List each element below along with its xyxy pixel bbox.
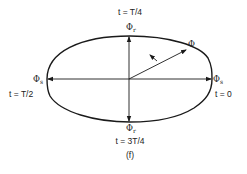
label-time-top: t = T/4 <box>118 7 142 17</box>
label-phi-resultant: Φ <box>188 39 195 49</box>
label-time-left: t = T/2 <box>9 89 33 99</box>
rotation-direction-arrow <box>150 55 157 61</box>
label-phi-r-top: Φr <box>126 22 136 33</box>
rotating-flux-diagram: t = T/4 Φr Φ Φs t = T/2 Φs t = 0 Φr t = … <box>0 0 247 174</box>
figure-caption: (f) <box>126 150 134 160</box>
label-phi-r-bottom: Φr <box>126 123 136 134</box>
arrow-phi-resultant <box>129 50 186 79</box>
label-phi-s-left: Φs <box>33 74 43 85</box>
label-time-bottom: t = 3T/4 <box>115 136 144 146</box>
label-phi-s-right: Φs <box>213 74 223 85</box>
label-time-right: t = 0 <box>215 89 232 99</box>
